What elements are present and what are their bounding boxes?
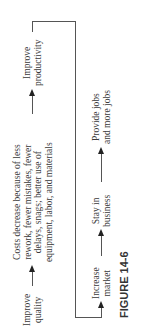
connector-line (101, 152, 102, 182)
node-provide-jobs: Provide jobs and more jobs (91, 90, 112, 144)
node-costs-decrease: Costs decrease because of less rework, f… (12, 142, 54, 262)
arrow-icon (29, 265, 35, 272)
connector-line (101, 234, 102, 256)
label-line: productivity (33, 40, 44, 86)
loop-line (32, 21, 75, 22)
connector-line (32, 270, 33, 286)
label-line: Costs decrease because of less (12, 142, 23, 262)
loop-line (32, 22, 33, 32)
loop-line (75, 317, 101, 318)
label-line: delays, snags; better use of (33, 142, 44, 262)
node-stay-in-business: Stay in business (91, 195, 112, 227)
figure-caption: FIGURE 14-6 (118, 251, 130, 318)
label-line: Stay in (91, 195, 102, 227)
label-line: and more jobs (102, 90, 113, 144)
loop-line (75, 21, 76, 318)
label-line: Increase (91, 267, 102, 299)
flow-diagram: Improve quality Costs decrease because o… (0, 0, 142, 332)
arrow-icon (98, 147, 104, 154)
label-line: equipment, labor, and materials (44, 142, 55, 262)
label-line: business (102, 195, 113, 227)
label-line: market (102, 267, 113, 299)
node-improve-productivity: Improve productivity (22, 40, 43, 86)
arrow-icon (98, 229, 104, 236)
node-increase-market: Increase market (91, 267, 112, 299)
node-improve-quality: Improve quality (22, 294, 43, 326)
label-line: Provide jobs (91, 90, 102, 144)
label-line: Improve (22, 40, 33, 86)
label-line: quality (33, 294, 44, 326)
label-line: rework, fewer mistakes, fewer (23, 142, 34, 262)
arrow-icon (29, 89, 35, 96)
label-line: Improve (22, 294, 33, 326)
connector-line (32, 94, 33, 114)
arrow-icon (98, 301, 104, 308)
